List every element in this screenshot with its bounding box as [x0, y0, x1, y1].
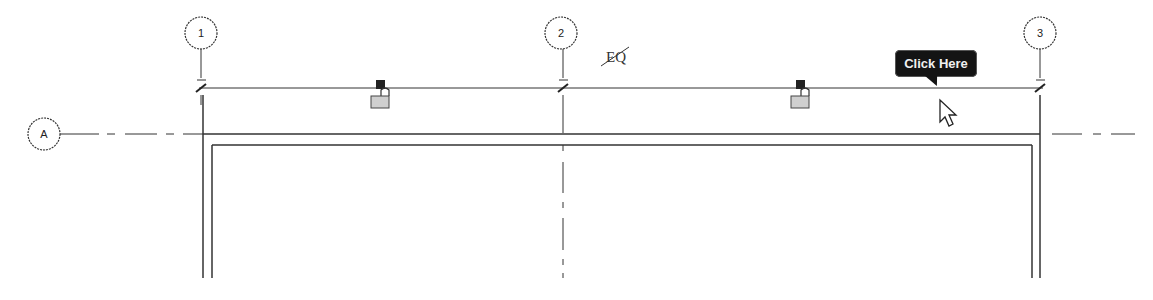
- grid-line-2[interactable]: 2: [545, 17, 577, 278]
- click-here-tooltip: Click Here: [895, 50, 977, 77]
- lock-icon-right[interactable]: [791, 80, 809, 108]
- grid-bubble-label-3: 3: [1037, 27, 1043, 39]
- grid-bubble-label-a: A: [40, 128, 48, 140]
- drawing-canvas[interactable]: A 1 2 3: [0, 0, 1153, 300]
- grid-line-1[interactable]: 1: [185, 17, 217, 105]
- lock-icon-left[interactable]: [371, 80, 389, 108]
- wall[interactable]: [203, 95, 1040, 278]
- grid-bubble-label-2: 2: [558, 27, 564, 39]
- arrow-pointer-icon: [940, 100, 956, 126]
- grid-bubble-label-1: 1: [198, 27, 204, 39]
- grid-line-3[interactable]: 3: [1024, 17, 1056, 80]
